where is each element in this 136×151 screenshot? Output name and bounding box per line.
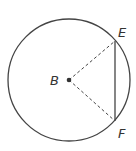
radius-be bbox=[69, 41, 115, 80]
circle-diagram: B E F bbox=[0, 0, 136, 151]
label-e: E bbox=[118, 25, 127, 40]
radius-bf bbox=[69, 80, 115, 121]
label-f: F bbox=[118, 126, 126, 141]
label-b: B bbox=[50, 73, 59, 88]
center-point bbox=[67, 78, 72, 83]
